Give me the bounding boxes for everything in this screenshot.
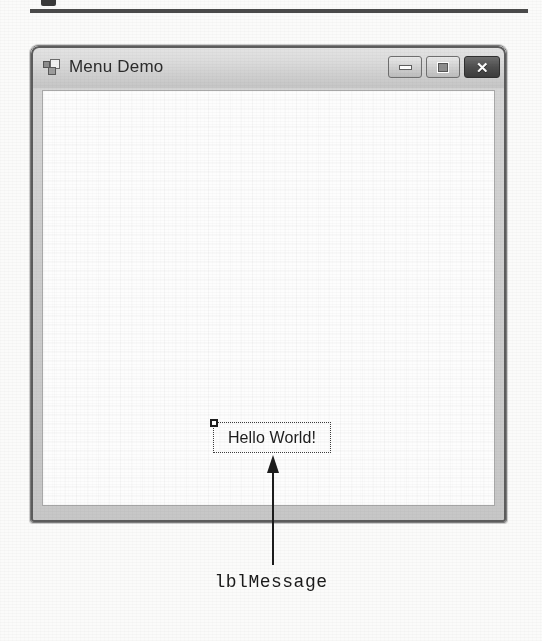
window-titlebar[interactable]: Menu Demo ✕ [31, 46, 506, 88]
windows-form-icon [43, 59, 61, 75]
form-window: Menu Demo ✕ Hello World! [30, 45, 507, 523]
callout-arrow [266, 455, 280, 565]
cropped-text-fragment [41, 0, 56, 6]
minimize-button[interactable] [388, 56, 422, 78]
maximize-button[interactable] [426, 56, 460, 78]
annotation-label: lblMessage [0, 572, 542, 592]
close-button[interactable]: ✕ [464, 56, 500, 78]
resize-handle-icon[interactable] [210, 419, 218, 427]
maximize-icon [437, 62, 449, 73]
window-controls: ✕ [388, 56, 500, 78]
windows-form-icon-square-bottom [48, 67, 56, 75]
window-title: Menu Demo [69, 57, 388, 77]
form-client-area[interactable]: Hello World! [42, 90, 495, 506]
horizontal-rule [30, 9, 528, 13]
close-icon: ✕ [476, 60, 489, 75]
label-control-text: Hello World! [228, 429, 316, 447]
minimize-icon [399, 65, 412, 70]
figure-page: Menu Demo ✕ Hello World! [0, 0, 542, 641]
label-control-lblmessage[interactable]: Hello World! [213, 422, 331, 453]
